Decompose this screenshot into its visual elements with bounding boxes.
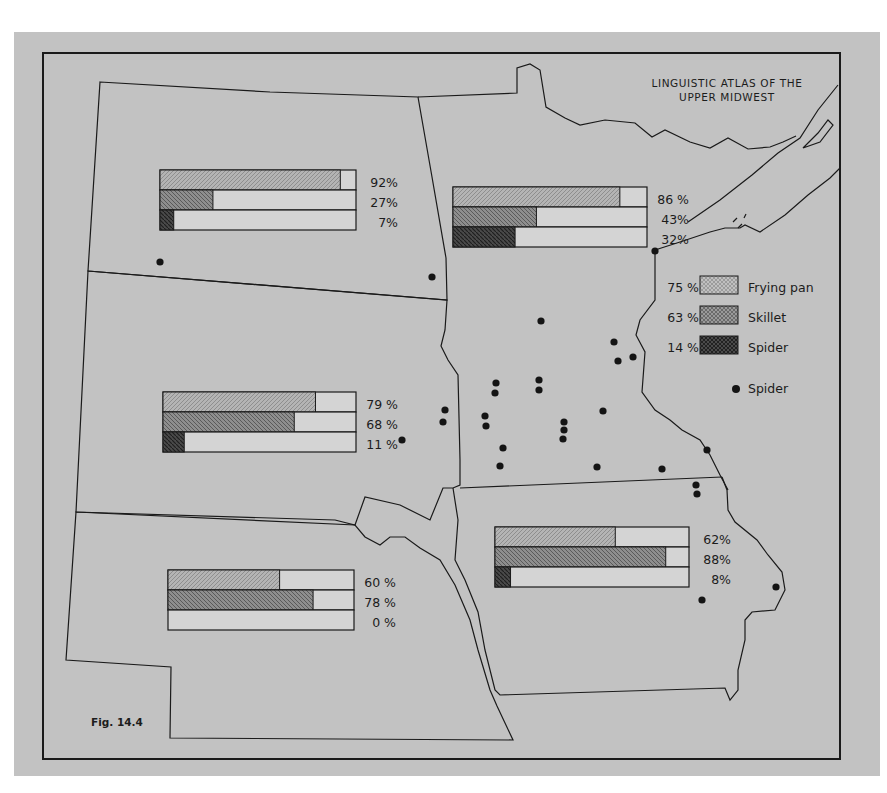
spider-dot [658,465,665,472]
bar-track [495,567,689,587]
spider-dot [693,490,700,497]
spider-dot [593,463,600,470]
lake-superior-north-shore [688,85,838,222]
spider-dot [492,379,499,386]
bar-group-iowa [495,527,689,587]
bar-track [160,210,356,230]
legend-pct-spider: 14 % [659,340,699,355]
bar-group-minnesota [453,187,647,247]
legend-label-skillet: Skillet [748,310,786,325]
title-line-2: UPPER MIDWEST [607,90,847,104]
figure-label: Fig. 14.4 [91,716,143,728]
spider-dot [559,435,566,442]
spider-dot [439,418,446,425]
spider-dot [651,247,658,254]
minnesota-south-border [460,477,722,488]
bar-label-iowa-spider: 8% [691,572,731,587]
bar-group-north-dakota [160,170,356,230]
bar-fill-skillet [495,547,666,567]
bar-label-south-dakota-spider: 11 % [358,437,398,452]
spider-dot [428,273,435,280]
bar-label-minnesota-spider: 32% [649,232,689,247]
bar-fill-spider [160,210,174,230]
legend-swatches [700,276,740,393]
spider-dot [560,418,567,425]
bar-label-south-dakota-frying: 79 % [358,397,398,412]
spider-dot [156,258,163,265]
legend-label-frying-pan: Frying pan [748,280,814,295]
spider-dot [496,462,503,469]
map-sheet: LINGUISTIC ATLAS OF THE UPPER MIDWEST 92… [14,32,880,776]
spider-dot [535,376,542,383]
bar-label-minnesota-frying: 86 % [649,192,689,207]
bar-label-north-dakota-skillet: 27% [358,195,398,210]
bar-fill-skillet [168,590,313,610]
legend-swatch-frying-pan [700,276,738,294]
bar-label-nebraska-skillet: 78 % [356,595,396,610]
legend-dot-icon [732,385,740,393]
spider-dot [703,446,710,453]
bar-fill-skillet [163,412,294,432]
bar-label-minnesota-skillet: 43% [649,212,689,227]
bar-track [163,432,356,452]
bar-fill-frying [495,527,615,547]
map-title: LINGUISTIC ATLAS OF THE UPPER MIDWEST [607,76,847,104]
bar-label-nebraska-spider: 0 % [356,615,396,630]
bar-label-north-dakota-spider: 7% [358,215,398,230]
bar-fill-spider [495,567,511,587]
bar-group-south-dakota [163,392,356,452]
wisconsin-border [720,475,728,490]
legend-swatch-skillet [700,306,738,324]
spider-dot [772,583,779,590]
bar-label-north-dakota-frying: 92% [358,175,398,190]
bar-fill-frying [453,187,620,207]
spider-dot [499,444,506,451]
bar-fill-skillet [160,190,213,210]
bar-label-nebraska-frying: 60 % [356,575,396,590]
spider-dot [560,426,567,433]
bar-label-iowa-skillet: 88% [691,552,731,567]
spider-dot [398,436,405,443]
spider-dot [482,422,489,429]
bar-fill-frying [160,170,340,190]
spider-dot [610,338,617,345]
bar-groups [160,170,689,630]
spider-dot [692,481,699,488]
legend-pct-skillet: 63 % [659,310,699,325]
spider-dot [614,357,621,364]
iowa-border [453,477,785,700]
spider-dot [535,386,542,393]
spider-dot [491,389,498,396]
spider-dot [441,406,448,413]
upper-midwest-map [14,32,880,776]
bar-fill-skillet [453,207,536,227]
title-line-1: LINGUISTIC ATLAS OF THE [607,76,847,90]
bar-fill-frying [168,570,280,590]
bar-group-nebraska [168,570,354,630]
bar-fill-spider [163,432,184,452]
spider-dot [481,412,488,419]
spider-dot [537,317,544,324]
spider-dot [599,407,606,414]
bar-fill-spider [453,227,515,247]
bar-track [168,610,354,630]
bar-label-south-dakota-skillet: 68 % [358,417,398,432]
bar-fill-frying [163,392,315,412]
spider-dot [629,353,636,360]
legend-label-spider: Spider [748,340,788,355]
legend-label-spider-dot: Spider [748,381,788,396]
spider-dot [698,596,705,603]
isle-royale [803,120,833,148]
legend-swatch-spider [700,336,738,354]
bar-label-iowa-frying: 62% [691,532,731,547]
legend-pct-frying-pan: 75 % [659,280,699,295]
